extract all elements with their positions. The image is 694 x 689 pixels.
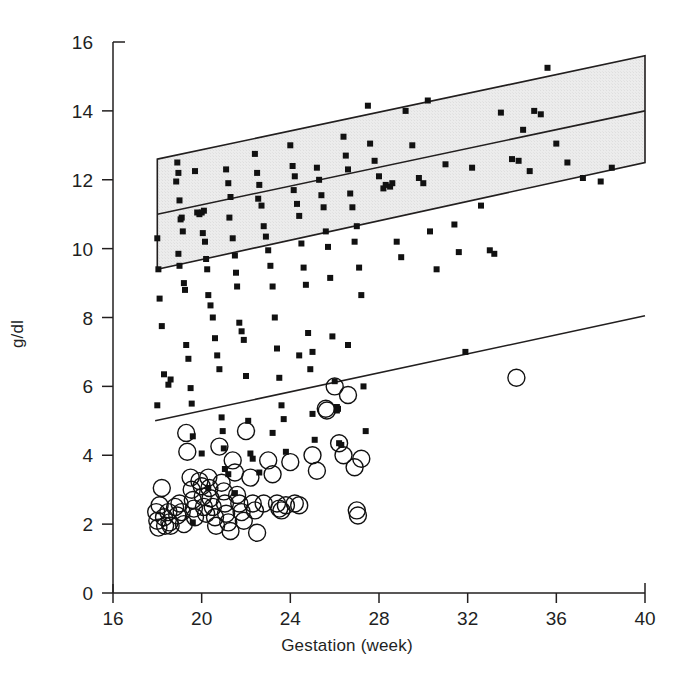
data-point-circle	[242, 469, 259, 486]
data-point-square	[462, 349, 468, 355]
data-point-square	[389, 180, 395, 186]
data-point-square	[252, 151, 258, 157]
y-tick-labels: 0246810121416	[72, 32, 94, 604]
data-point-circle	[224, 452, 241, 469]
data-point-square	[527, 168, 533, 174]
data-point-square	[361, 383, 367, 389]
data-point-square	[220, 428, 226, 434]
data-point-square	[225, 180, 231, 186]
data-point-square	[516, 158, 522, 164]
data-point-square	[296, 213, 302, 219]
data-point-square	[301, 265, 307, 271]
data-point-square	[292, 173, 298, 179]
data-point-square	[343, 153, 349, 159]
data-point-square	[564, 160, 570, 166]
data-point-square	[363, 428, 369, 434]
x-tick-label: 40	[634, 608, 655, 629]
data-point-square	[403, 108, 409, 114]
y-tick-label: 0	[82, 583, 93, 604]
data-point-square	[323, 228, 329, 234]
data-point-square	[290, 163, 296, 169]
data-point-square	[420, 180, 426, 186]
data-point-square	[296, 352, 302, 358]
data-point-square	[208, 302, 214, 308]
data-point-square	[165, 382, 171, 388]
y-tick-label: 14	[72, 101, 94, 122]
data-point-square	[279, 402, 285, 408]
data-point-square	[416, 175, 422, 181]
data-point-square	[216, 366, 222, 372]
data-point-square	[287, 142, 293, 148]
data-point-square	[192, 168, 198, 174]
data-point-square	[354, 223, 360, 229]
data-point-square	[202, 239, 208, 245]
data-point-square	[219, 414, 225, 420]
data-point-square	[307, 366, 313, 372]
data-point-square	[214, 352, 220, 358]
data-point-square	[531, 108, 537, 114]
data-point-square	[478, 203, 484, 209]
data-point-square	[270, 430, 276, 436]
data-point-square	[291, 187, 297, 193]
data-point-square	[469, 165, 475, 171]
data-point-square	[201, 208, 207, 214]
data-point-square	[347, 191, 353, 197]
data-point-square	[367, 141, 373, 147]
data-point-square	[261, 223, 267, 229]
data-point-square	[538, 111, 544, 117]
data-point-square	[356, 265, 362, 271]
y-tick-label: 12	[72, 170, 93, 191]
scatter-plot-canvas: 16202428323640 0246810121416	[0, 0, 694, 689]
data-point-square	[372, 158, 378, 164]
data-point-square	[425, 98, 431, 104]
data-point-square	[394, 239, 400, 245]
y-tick-label: 10	[72, 239, 93, 260]
data-point-square	[276, 375, 282, 381]
data-point-square	[609, 165, 615, 171]
data-point-circle	[238, 423, 255, 440]
x-axis-label: Gestation (week)	[0, 636, 694, 656]
data-point-square	[154, 235, 160, 241]
y-tick-label: 2	[82, 514, 93, 535]
y-axis-label: g/dl	[8, 298, 28, 370]
data-point-square	[228, 194, 234, 200]
data-point-square	[345, 342, 351, 348]
data-point-square	[318, 192, 324, 198]
data-point-square	[491, 251, 497, 257]
data-point-square	[205, 292, 211, 298]
x-tick-label: 28	[368, 608, 389, 629]
x-tick-label: 36	[546, 608, 567, 629]
data-point-square	[598, 179, 604, 185]
data-point-square	[398, 254, 404, 260]
data-point-square	[520, 127, 526, 133]
data-point-square	[182, 287, 188, 293]
lower-regression-line	[155, 316, 645, 421]
data-point-square	[312, 437, 318, 443]
data-point-square	[177, 263, 183, 269]
data-point-square	[175, 170, 181, 176]
data-point-square	[358, 292, 364, 298]
chart-figure: 16202428323640 0246810121416 Gestation (…	[0, 0, 694, 689]
data-point-square	[204, 266, 210, 272]
data-point-circle	[179, 443, 196, 460]
data-point-square	[263, 234, 269, 240]
data-point-square	[409, 142, 415, 148]
data-point-square	[270, 284, 276, 290]
x-tick-label: 20	[191, 608, 212, 629]
x-tick-label: 32	[457, 608, 478, 629]
data-point-square	[177, 197, 183, 203]
data-point-square	[443, 161, 449, 167]
data-point-square	[321, 204, 327, 210]
data-point-square	[376, 173, 382, 179]
data-point-square	[580, 175, 586, 181]
data-point-square	[243, 373, 249, 379]
data-point-circle	[318, 402, 335, 419]
data-point-square	[174, 160, 180, 166]
data-point-square	[305, 330, 311, 336]
data-point-square	[203, 256, 209, 262]
data-point-circle	[308, 462, 325, 479]
data-point-square	[451, 222, 457, 228]
data-point-square	[230, 235, 236, 241]
y-tick-label: 8	[82, 308, 93, 329]
data-point-square	[345, 166, 351, 172]
